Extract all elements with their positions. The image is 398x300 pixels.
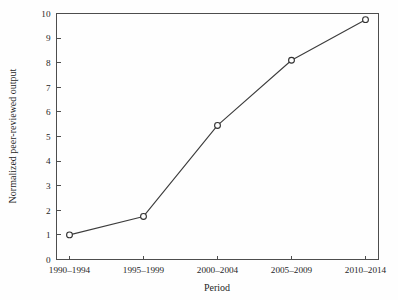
y-tick-label: 0 <box>46 255 51 265</box>
x-tick-label: 1995–1999 <box>123 265 165 275</box>
x-tick-label: 1990–1994 <box>49 265 91 275</box>
y-tick-label: 7 <box>46 83 51 93</box>
y-tick-label: 1 <box>46 230 51 240</box>
y-tick-label: 4 <box>46 156 51 166</box>
y-tick-label: 10 <box>41 9 51 19</box>
data-point-marker <box>363 17 369 23</box>
y-axis: 012345678910 <box>41 9 60 265</box>
x-tick-label: 2000–2004 <box>197 265 239 275</box>
x-axis-title: Period <box>204 282 230 293</box>
data-series <box>67 17 369 238</box>
plot-frame <box>57 14 379 260</box>
y-tick-label: 6 <box>46 107 51 117</box>
axis-frame <box>57 14 379 260</box>
x-axis: 1990–19941995–19992000–20042005–20092010… <box>49 256 387 275</box>
line-chart: 012345678910 1990–19941995–19992000–2004… <box>0 0 398 300</box>
y-axis-title: Normalized peer-reviewed output <box>7 68 18 203</box>
y-tick-label: 3 <box>46 181 51 191</box>
data-point-marker <box>67 232 73 238</box>
series-markers <box>67 17 369 238</box>
y-tick-label: 9 <box>46 33 51 43</box>
y-tick-label: 2 <box>46 206 51 216</box>
chart-figure: 012345678910 1990–19941995–19992000–2004… <box>0 0 398 300</box>
y-tick-label: 5 <box>46 132 51 142</box>
data-point-marker <box>289 57 295 63</box>
x-tick-label: 2010–2014 <box>345 265 387 275</box>
data-point-marker <box>141 214 147 220</box>
x-tick-label: 2005–2009 <box>271 265 313 275</box>
data-point-marker <box>215 123 221 129</box>
y-tick-label: 8 <box>46 58 51 68</box>
